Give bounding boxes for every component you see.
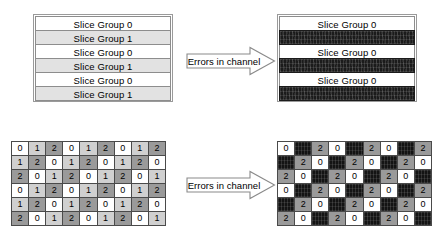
macroblock-cell: 2 [329, 170, 346, 184]
macroblock-cell: 2 [98, 184, 115, 198]
macroblock-cell: 2 [80, 156, 97, 170]
macroblock-cell: 0 [364, 198, 381, 212]
macroblock-cell [364, 170, 381, 184]
macroblock-cell: 1 [12, 198, 29, 212]
slice-group-row [279, 86, 415, 101]
macroblock-cell: 2 [312, 184, 329, 198]
macroblock-cell: 0 [98, 198, 115, 212]
macroblock-cell [381, 156, 398, 170]
macroblock-cell: 0 [398, 170, 415, 184]
macroblock-cell: 2 [115, 212, 132, 226]
macroblock-cell: 0 [346, 170, 363, 184]
macroblock-cell: 0 [132, 212, 149, 226]
macroblock-cell: 1 [80, 184, 97, 198]
slice-group-row: Slice Group 1 [35, 86, 171, 101]
macroblock-cell: 2 [12, 212, 29, 226]
macroblock-cell: 2 [132, 198, 149, 212]
macroblock-cell: 2 [364, 142, 381, 156]
slice-group-row: Slice Group 0 [279, 16, 415, 31]
slice-group-row: Slice Group 0 [35, 44, 171, 59]
slice-group-row: Slice Group 0 [279, 72, 415, 87]
macroblock-cell: 0 [415, 156, 432, 170]
slice-group-row: Slice Group 1 [35, 30, 171, 45]
macroblock-cell [364, 212, 381, 226]
macroblock-cell [295, 184, 312, 198]
slice-group-row: Slice Group 1 [35, 58, 171, 73]
macroblock-cell: 2 [149, 142, 166, 156]
macroblock-cell: 2 [115, 170, 132, 184]
macroblock-cell: 2 [63, 170, 80, 184]
macroblock-cell: 1 [115, 156, 132, 170]
macroblock-cell: 0 [295, 212, 312, 226]
macroblock-cell [278, 156, 295, 170]
macroblock-cell [415, 212, 432, 226]
macroblock-cell: 2 [415, 184, 432, 198]
macroblock-cell: 2 [381, 212, 398, 226]
macroblock-cell: 0 [149, 198, 166, 212]
macroblock-cell: 2 [63, 212, 80, 226]
slice-group-stack-after: Slice Group 0Slice Group 0Slice Group 0 [277, 14, 417, 102]
macroblock-cell: 2 [132, 156, 149, 170]
arrow-label-top: Errors in channel [188, 56, 275, 67]
errors-in-channel-arrow-top: Errors in channel [186, 46, 276, 76]
macroblock-cell: 0 [46, 156, 63, 170]
macroblock-cell: 0 [12, 142, 29, 156]
slice-group-row [279, 30, 415, 45]
macroblock-cell: 0 [381, 184, 398, 198]
macroblock-cell: 2 [398, 156, 415, 170]
macroblock-cell: 2 [295, 156, 312, 170]
macroblock-cell: 2 [278, 170, 295, 184]
macroblock-cell: 0 [329, 184, 346, 198]
macroblock-cell: 1 [80, 142, 97, 156]
macroblock-cell: 0 [415, 198, 432, 212]
macroblock-cell: 0 [346, 212, 363, 226]
macroblock-cell: 2 [98, 142, 115, 156]
macroblock-cell: 2 [46, 184, 63, 198]
macroblock-cell [329, 198, 346, 212]
macroblock-cell: 2 [149, 184, 166, 198]
macroblock-cell [398, 142, 415, 156]
macroblock-cell: 0 [80, 212, 97, 226]
macroblock-cell: 2 [346, 156, 363, 170]
macroblock-cell: 0 [98, 156, 115, 170]
macroblock-cell [278, 198, 295, 212]
macroblock-cell: 0 [63, 142, 80, 156]
macroblock-cell: 1 [46, 170, 63, 184]
macroblock-cell [312, 170, 329, 184]
macroblock-cell: 0 [12, 184, 29, 198]
macroblock-cell: 1 [132, 142, 149, 156]
macroblock-grid-after: 020202202020202020020202202020202020 [277, 141, 432, 226]
macroblock-cell: 0 [329, 142, 346, 156]
macroblock-cell: 2 [295, 198, 312, 212]
diagram-canvas: Slice Group 0Slice Group 1Slice Group 0S… [0, 0, 446, 243]
errors-in-channel-arrow-bottom: Errors in channel [186, 170, 276, 200]
arrow-label-bottom: Errors in channel [188, 180, 275, 191]
macroblock-cell [346, 184, 363, 198]
macroblock-cell: 1 [63, 198, 80, 212]
macroblock-cell: 0 [312, 198, 329, 212]
macroblock-cell: 0 [63, 184, 80, 198]
macroblock-cell [346, 142, 363, 156]
macroblock-cell: 1 [115, 198, 132, 212]
macroblock-cell: 1 [98, 170, 115, 184]
macroblock-cell: 2 [398, 198, 415, 212]
macroblock-cell [415, 170, 432, 184]
macroblock-cell: 2 [329, 212, 346, 226]
macroblock-cell: 2 [12, 170, 29, 184]
macroblock-cell: 1 [29, 142, 46, 156]
macroblock-cell: 1 [149, 170, 166, 184]
macroblock-cell: 0 [278, 184, 295, 198]
slice-group-row [279, 58, 415, 73]
macroblock-cell: 0 [115, 184, 132, 198]
macroblock-cell: 0 [398, 212, 415, 226]
macroblock-cell: 2 [312, 142, 329, 156]
slice-group-row: Slice Group 0 [35, 16, 171, 31]
macroblock-cell: 1 [29, 184, 46, 198]
macroblock-cell: 0 [149, 156, 166, 170]
macroblock-cell: 2 [29, 156, 46, 170]
macroblock-cell: 1 [12, 156, 29, 170]
macroblock-cell: 0 [29, 212, 46, 226]
macroblock-cell: 0 [364, 156, 381, 170]
macroblock-cell: 1 [132, 184, 149, 198]
macroblock-cell: 2 [29, 198, 46, 212]
